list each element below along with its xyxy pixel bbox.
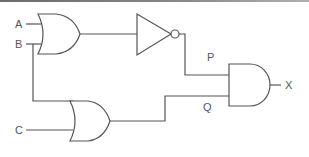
label-q: Q	[203, 101, 212, 113]
label-c: C	[15, 124, 23, 136]
not-gate-bubble	[171, 30, 179, 38]
or-gate-2	[70, 101, 110, 141]
label-a: A	[15, 18, 23, 30]
label-b: B	[15, 38, 22, 50]
label-x: X	[285, 79, 293, 91]
not-gate	[137, 14, 171, 55]
label-p: P	[207, 51, 214, 63]
logic-circuit-diagram: A B C P Q X	[0, 0, 309, 157]
or-gate-1	[38, 14, 80, 54]
wire-p	[179, 34, 229, 75]
and-gate	[229, 64, 270, 106]
